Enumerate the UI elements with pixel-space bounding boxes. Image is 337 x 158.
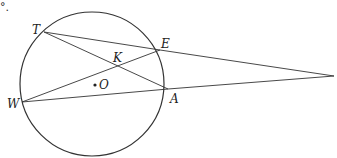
center-point-icon xyxy=(93,83,96,86)
label-a: A xyxy=(169,92,179,106)
segment-wa xyxy=(22,89,168,102)
label-w: W xyxy=(7,97,21,111)
segment-ep xyxy=(160,50,334,76)
cropped-text-fragment: °. xyxy=(0,1,9,14)
label-e: E xyxy=(160,37,170,51)
label-o: O xyxy=(99,78,109,92)
segment-te xyxy=(44,32,160,50)
segment-ap xyxy=(168,76,334,89)
geometry-diagram: °. T E K O W A xyxy=(0,0,337,158)
label-t: T xyxy=(32,23,41,37)
circle-o xyxy=(20,12,164,156)
label-k: K xyxy=(112,51,123,65)
